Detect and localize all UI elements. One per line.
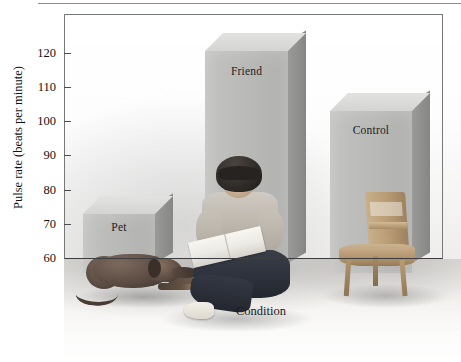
header-rule — [38, 3, 461, 4]
person-shoe — [184, 302, 214, 319]
y-tick-mark-80 — [64, 190, 71, 191]
y-tick-mark-70 — [64, 224, 71, 225]
plot-frame — [64, 14, 443, 259]
y-tick-mark-90 — [64, 155, 71, 156]
x-axis-title: Condition — [236, 304, 286, 319]
y-axis-title: Pulse rate (beats per minute) — [11, 23, 26, 253]
y-tick-mark-110 — [64, 87, 71, 88]
y-tick-mark-100 — [64, 121, 71, 122]
dog-leg-back — [158, 283, 192, 290]
y-tick-mark-120 — [64, 53, 71, 54]
y-tick-label-60: 60 — [14, 252, 56, 265]
chair-leg-back — [373, 256, 378, 286]
chair-shadow — [323, 284, 447, 308]
